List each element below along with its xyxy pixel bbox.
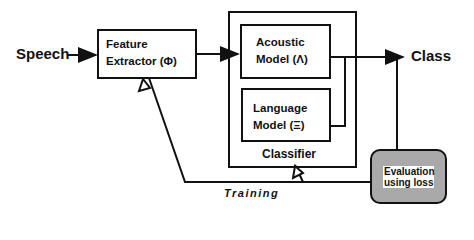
acoustic-model-line2: Model (Λ) [256,51,308,68]
evaluation-line1: Evaluation [384,166,435,177]
feature-extractor-line2: Extractor (Φ) [106,53,177,70]
training-arrowhead-feature [139,79,150,91]
language-model-line2: Model (Ξ) [253,117,307,134]
feature-extractor-line1: Feature [106,36,177,53]
evaluation-label: Evaluation using loss [384,166,435,188]
language-model-line1: Language [253,100,307,117]
output-label: Class [411,47,451,64]
language-model-label: Language Model (Ξ) [253,100,307,134]
evaluation-line2: using loss [384,177,435,188]
acoustic-model-label: Acoustic Model (Λ) [256,34,308,68]
training-label: Training [224,187,279,199]
feature-extractor-label: Feature Extractor (Φ) [106,36,177,70]
acoustic-model-line1: Acoustic [256,34,308,51]
input-label: Speech [16,45,69,62]
language-model-link [330,57,345,126]
classifier-label: Classifier [262,147,316,161]
